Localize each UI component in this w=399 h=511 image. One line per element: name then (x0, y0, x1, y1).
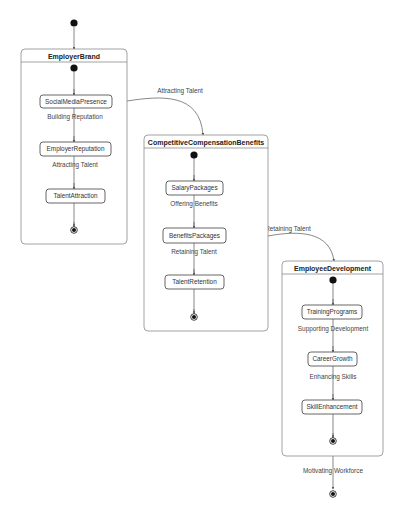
state-label: SkillEnhancement (306, 403, 357, 410)
state-label: SalaryPackages (171, 184, 217, 192)
transition-path (268, 233, 334, 261)
composite-state-employer-brand[interactable]: EmployerBrandSocialMediaPresenceEmployer… (21, 49, 127, 244)
state-label: TalentAttraction (53, 192, 97, 199)
final-state-dot (331, 439, 335, 443)
state-label: CareerGrowth (312, 355, 353, 362)
initial-state-icon (190, 151, 197, 158)
transition-1[interactable]: Retaining Talent (265, 225, 334, 261)
state-label: TalentRetention (172, 278, 217, 285)
composite-title: EmployeeDevelopment (294, 265, 372, 273)
final-state-dot (331, 492, 335, 496)
transition-label: Offering Benefits (170, 200, 217, 208)
composite-state-competitive-compensation-benefits[interactable]: CompetitiveCompensationBenefitsSalaryPac… (144, 135, 268, 331)
state-label: EmployerReputation (47, 145, 105, 153)
initial-state-icon (70, 64, 77, 71)
transition-0[interactable]: Attracting Talent (127, 87, 203, 135)
composite-title: CompetitiveCompensationBenefits (148, 139, 264, 147)
transition-label: Building Reputation (47, 113, 103, 121)
transition-label: Attracting Talent (157, 87, 203, 95)
initial-state-icon (329, 276, 336, 283)
composite-state-employee-development[interactable]: EmployeeDevelopmentTrainingProgramsCaree… (282, 261, 383, 456)
composite-title: EmployerBrand (48, 53, 100, 61)
transition-path (127, 98, 203, 135)
final-state-dot (72, 228, 76, 232)
transition-label: Enhancing Skills (310, 373, 357, 381)
initial-state-icon (70, 19, 77, 26)
state-label: BenefitsPackages (169, 232, 220, 240)
transition-label: Retaining Talent (265, 225, 311, 233)
state-label: TrainingPrograms (307, 308, 358, 316)
transition-2[interactable]: Motivating Workforce (303, 456, 363, 489)
transition-label: Supporting Development (298, 325, 369, 333)
transition-label: Attracting Talent (52, 161, 98, 169)
state-label: SocialMediaPresence (45, 98, 107, 105)
final-state-dot (192, 315, 196, 319)
state-diagram: Attracting TalentRetaining TalentMotivat… (0, 0, 399, 511)
transition-label: Motivating Workforce (303, 467, 363, 475)
transition-label: Retaining Talent (171, 248, 217, 256)
composite-layer: EmployerBrandSocialMediaPresenceEmployer… (21, 49, 383, 456)
